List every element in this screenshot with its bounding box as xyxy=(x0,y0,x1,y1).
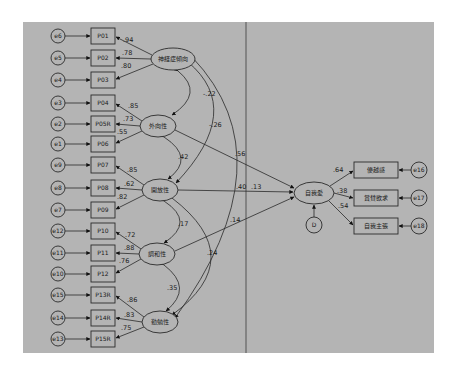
error-e17: e17 xyxy=(411,190,427,206)
error-label: e16 xyxy=(413,166,425,173)
indicator-label: P08 xyxy=(97,184,108,191)
loading-value: .88 xyxy=(124,244,134,252)
error-label: e1 xyxy=(54,140,62,147)
indicator-label: P12 xyxy=(97,270,108,277)
loading-value: .80 xyxy=(121,62,131,70)
correlation-value: -.22 xyxy=(203,90,216,98)
latent-label: 調和性 xyxy=(148,250,166,258)
indicator-p04: P04 xyxy=(91,95,115,111)
error-e15: e15 xyxy=(51,288,65,302)
error-e1: e1 xyxy=(51,137,65,151)
outcome-admiration: 賞賛欲求 xyxy=(354,190,398,206)
loading-value: .83 xyxy=(124,311,134,319)
error-e14: e14 xyxy=(51,311,65,325)
correlation-value: .35 xyxy=(167,284,177,292)
indicator-p10: P10 xyxy=(91,223,115,239)
latent-label: 外向性 xyxy=(149,122,167,130)
loading-value: .55 xyxy=(117,128,127,136)
outcome-indicators: 優越感 賞賛欲求 自我主張 e16 e17 e18 xyxy=(354,162,427,234)
correlation-value: .42 xyxy=(178,153,188,161)
disturbance-label: D xyxy=(312,221,317,228)
indicator-p09: P09 xyxy=(91,202,115,218)
error-label: e6 xyxy=(54,32,62,39)
latent-label: 自我愛 xyxy=(305,189,323,197)
indicator-label: P14R xyxy=(95,314,110,321)
indicator-label: P02 xyxy=(97,54,108,61)
path-value: .14 xyxy=(230,216,240,224)
error-terms: e6 e5 e4 e3 e2 e1 e9 e8 e7 e12 e11 e10 e… xyxy=(51,29,65,346)
error-e3: e3 xyxy=(51,96,65,110)
error-label: e17 xyxy=(413,194,425,201)
sem-diagram: e6 e5 e4 e3 e2 e1 e9 e8 e7 e12 e11 e10 e… xyxy=(0,0,460,373)
latent-openness: 開放性 xyxy=(142,179,178,201)
disturbance-d: D xyxy=(306,217,322,233)
latent-label: 勤勉性 xyxy=(151,318,169,326)
indicator-p11: P11 xyxy=(91,245,115,261)
loading-value: .94 xyxy=(123,36,133,44)
error-label: e9 xyxy=(54,161,62,168)
outcome-label: 自我主張 xyxy=(364,222,388,230)
error-e11: e11 xyxy=(51,246,65,260)
error-label: e18 xyxy=(413,222,425,229)
error-e10: e10 xyxy=(51,267,65,281)
loading-value: .86 xyxy=(127,296,137,304)
error-e18: e18 xyxy=(411,218,427,234)
latent-extraversion: 外向性 xyxy=(140,115,176,137)
indicator-p05r: P05R xyxy=(91,116,115,132)
indicator-label: P13R xyxy=(95,291,110,298)
error-label: e7 xyxy=(54,206,62,213)
error-e8: e8 xyxy=(51,181,65,195)
indicator-p03: P03 xyxy=(91,72,115,88)
indicator-p06: P06 xyxy=(91,136,115,152)
indicator-p14r: P14R xyxy=(91,310,115,326)
loading-value: .76 xyxy=(119,257,129,265)
error-e6: e6 xyxy=(51,29,65,43)
outcome-loading-value: .38 xyxy=(337,187,347,195)
latent-neuroticism: 神経症傾向 xyxy=(151,48,195,70)
indicator-label: P09 xyxy=(97,206,108,213)
error-label: e12 xyxy=(52,227,64,234)
correlation-value: .17 xyxy=(178,220,188,228)
indicators: P01 P02 P03 P04 P05R P06 P07 P08 P09 P10… xyxy=(91,28,115,347)
indicator-p15r: P15R xyxy=(91,331,115,347)
error-e5: e5 xyxy=(51,51,65,65)
indicator-p13r: P13R xyxy=(91,287,115,303)
indicator-label: P05R xyxy=(95,120,110,127)
correlation-value: -.26 xyxy=(209,121,222,129)
error-e13: e13 xyxy=(51,332,65,346)
indicator-label: P03 xyxy=(97,76,108,83)
error-label: e4 xyxy=(54,76,62,83)
path-value: .40 xyxy=(236,183,246,191)
path-value: .13 xyxy=(251,183,261,191)
outcome-label: 優越感 xyxy=(367,166,385,174)
error-label: e14 xyxy=(52,314,64,321)
indicator-label: P15R xyxy=(95,335,110,342)
latent-narcissism: 自我愛 xyxy=(294,182,334,204)
indicator-label: P04 xyxy=(97,99,108,106)
error-e4: e4 xyxy=(51,73,65,87)
error-label: e15 xyxy=(52,291,64,298)
latent-agreeableness: 調和性 xyxy=(139,243,175,265)
diagram-panel xyxy=(23,22,434,353)
error-label: e13 xyxy=(52,335,64,342)
loading-value: .72 xyxy=(125,231,135,239)
loading-value: .85 xyxy=(128,102,138,110)
loading-value: .82 xyxy=(117,193,127,201)
error-e16: e16 xyxy=(411,162,427,178)
error-label: e3 xyxy=(54,99,62,106)
outcome-loading-value: .64 xyxy=(333,166,343,174)
indicator-label: P10 xyxy=(97,227,108,234)
indicator-p08: P08 xyxy=(91,180,115,196)
error-label: e10 xyxy=(52,270,64,277)
indicator-p07: P07 xyxy=(91,157,115,173)
latent-conscientiousness: 勤勉性 xyxy=(142,311,178,333)
path-value: .56 xyxy=(235,150,245,158)
latent-label: 開放性 xyxy=(151,186,169,194)
loading-value: .73 xyxy=(123,115,133,123)
error-e2: e2 xyxy=(51,117,65,131)
outcome-label: 賞賛欲求 xyxy=(364,194,388,202)
error-label: e2 xyxy=(54,120,62,127)
loading-value: .75 xyxy=(121,324,131,332)
error-label: e11 xyxy=(52,249,64,256)
outcome-assertion: 自我主張 xyxy=(354,218,398,234)
